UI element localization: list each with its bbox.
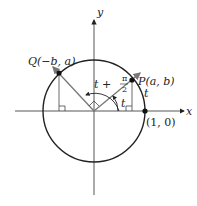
point-one-zero-label: (1, 0) xyxy=(146,116,176,129)
unit-circle-diagram: x y t t + π 2 t P(a, b) Q(−b, a) (1, 0) xyxy=(0,0,197,206)
point-p-label: P(a, b) xyxy=(137,75,175,88)
point-one-zero xyxy=(142,108,147,113)
y-axis-label: y xyxy=(96,6,104,19)
p-right-angle-mark xyxy=(126,106,132,111)
x-axis-label: x xyxy=(186,105,193,118)
angle-pi-denominator: 2 xyxy=(122,85,127,94)
point-q-label: Q(−b, a) xyxy=(28,55,75,68)
angle-t-plus-label-prefix: t + xyxy=(94,78,111,91)
arc-length-t-label: t xyxy=(144,87,149,100)
point-q xyxy=(56,70,61,75)
point-p xyxy=(129,77,134,82)
angle-t-label: t xyxy=(121,97,126,110)
angle-pi-numerator: π xyxy=(122,74,127,83)
q-right-angle-mark xyxy=(59,106,65,111)
